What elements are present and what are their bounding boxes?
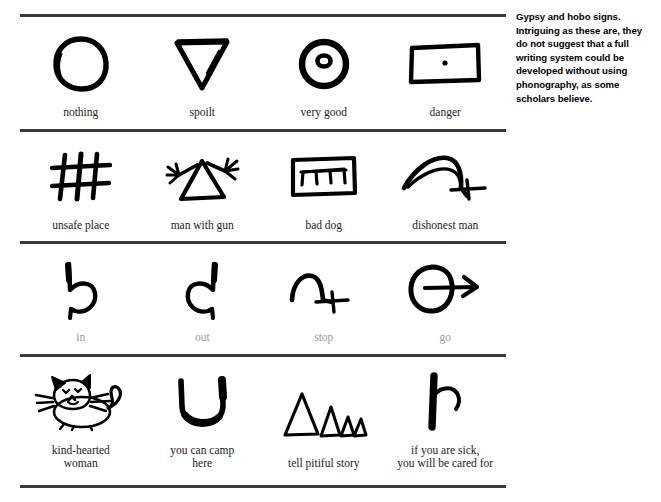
hand-drawn-box-with-teeth-icon [263,132,385,212]
sign-label: unsafe place [50,212,111,242]
hand-drawn-circle-with-arrow-icon [385,244,507,324]
sign-label: nothing [61,99,100,129]
sign-cell-man-with-gun: man with gun [142,132,264,242]
table-rule-bottom [20,485,506,488]
sign-cell-out: out [142,244,264,354]
sign-cell-nothing: nothing [20,17,142,129]
sign-cell-unsafe-place: unsafe place [20,132,142,242]
sign-label: stop [312,324,335,354]
hand-drawn-arch-with-cross-icon [263,244,385,324]
sign-cell-very-good: very good [263,17,385,129]
sign-cell-danger: danger [385,17,507,129]
sign-cell-in: in [20,244,142,354]
sign-label: tell pitiful story [286,450,362,485]
table-row: nothing spoilt [20,17,506,129]
sign-cell-spoilt: spoilt [142,17,264,129]
sign-cell-dishonest-man: dishonest man [385,132,507,242]
sign-label: very good [299,99,349,129]
hand-drawn-oval-icon [20,17,142,99]
sign-cell-stop: stop [263,244,385,354]
table-row: unsafe place man with gun [20,132,506,242]
hand-drawn-stroke-with-hook-icon [385,357,507,437]
sign-label: you can camp here [168,437,236,485]
hand-drawn-triangle-with-arms-icon [142,132,264,212]
figure-caption: Gypsy and hobo signs. Intriguing as thes… [516,10,656,105]
sign-label: go [438,324,454,354]
sign-label: danger [428,99,463,129]
hand-drawn-cat-icon [20,357,142,437]
sign-cell-you-can-camp-here: you can camp here [142,357,264,485]
hand-drawn-circle-with-dot-icon [263,17,385,99]
sign-label: spoilt [187,99,217,129]
sign-cell-tell-pitiful-story: tell pitiful story [263,357,385,485]
page-canvas: nothing spoilt [0,0,661,502]
sign-label: if you are sick, you will be cared for [395,437,495,485]
sign-label: in [74,324,87,354]
sign-cell-kind-hearted-woman: kind-hearted woman [20,357,142,485]
hand-drawn-u-shape-icon [142,357,264,437]
hand-drawn-arc-with-cross-icon [385,132,507,212]
sign-cell-if-you-are-sick: if you are sick, you will be cared for [385,357,507,485]
hand-drawn-rectangle-with-dot-icon [385,17,507,99]
hand-drawn-four-triangles-icon [263,370,385,450]
hand-drawn-grid-icon [20,132,142,212]
hand-drawn-hook-left-icon [142,244,264,324]
sign-table: nothing spoilt [20,14,506,488]
sign-label: man with gun [169,212,236,242]
sign-label: out [193,324,212,354]
sign-label: dishonest man [410,212,480,242]
hand-drawn-down-triangle-icon [142,17,264,99]
hand-drawn-hook-right-icon [20,244,142,324]
table-row: in out [20,244,506,354]
sign-cell-go: go [385,244,507,354]
table-row: kind-hearted woman you can camp here [20,357,506,485]
sign-cell-bad-dog: bad dog [263,132,385,242]
sign-label: kind-hearted woman [50,437,112,485]
sign-label: bad dog [303,212,344,242]
